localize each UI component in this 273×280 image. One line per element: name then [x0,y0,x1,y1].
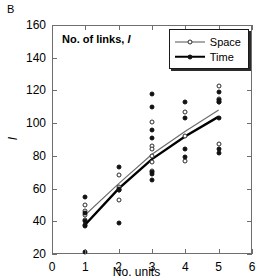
y-tick [247,156,252,157]
y-tick [52,254,57,255]
data-point-time [216,116,221,121]
legend-symbol-time [175,51,205,62]
y-tick [247,254,252,255]
y-axis-title: l [6,137,20,140]
data-point-time [183,155,188,160]
y-tick-label: 140 [26,51,46,65]
legend-label-space: Space [210,36,241,48]
data-point-time [216,150,221,155]
data-point-time [183,147,188,152]
legend-item-time: Time [175,49,241,64]
y-tick-label: 120 [26,83,46,97]
data-point-space [150,153,155,158]
data-point-time [150,178,155,183]
data-point-space [183,134,188,139]
x-tick [252,25,253,30]
panel-label: B [7,3,15,15]
y-tick [247,189,252,190]
y-tick [247,221,252,222]
data-point-space [116,173,121,178]
data-point-time [150,91,155,96]
y-tick-label: 40 [33,214,46,228]
x-axis-title: No. units [0,265,273,279]
y-tick [52,58,57,59]
legend-symbol-space [175,36,205,47]
y-tick [247,123,252,124]
y-tick [52,123,57,124]
data-point-time [83,224,88,229]
x-tick [185,249,186,254]
x-tick [85,249,86,254]
data-point-time [150,171,155,176]
x-tick [119,25,120,30]
data-point-space [216,83,221,88]
data-point-space [83,202,88,207]
data-point-time [83,194,88,199]
y-tick [247,90,252,91]
data-point-space [116,198,121,203]
data-point-time [150,104,155,109]
x-tick [152,25,153,30]
y-tick [52,189,57,190]
data-point-time [150,135,155,140]
x-tick [252,249,253,254]
data-point-time [183,116,188,121]
y-tick [52,90,57,91]
y-tick-label: 80 [33,149,46,163]
y-tick-label: 60 [33,182,46,196]
y-tick-label: 20 [33,247,46,261]
plot-area: No. of links, l 204060801001201401600123… [52,25,252,254]
data-point-time [183,99,188,104]
data-point-time [116,188,121,193]
data-point-space [150,119,155,124]
data-point-space [150,160,155,165]
y-tick-label: 100 [26,116,46,130]
data-point-time [116,220,121,225]
data-point-time [116,165,121,170]
x-tick [219,249,220,254]
x-tick [119,249,120,254]
y-tick [52,221,57,222]
legend-item-space: Space [175,34,241,49]
legend-label-time: Time [210,51,234,63]
y-tick-label: 160 [26,18,46,32]
chart-legend: Space Time [169,29,249,69]
y-tick [52,156,57,157]
data-point-time [150,127,155,132]
x-tick [52,249,53,254]
data-point-time [216,90,221,95]
data-point-space [183,109,188,114]
x-tick [52,25,53,30]
x-tick [85,25,86,30]
data-point-time [83,211,88,216]
data-point-space [150,147,155,152]
x-tick [152,249,153,254]
data-point-time [216,99,221,104]
